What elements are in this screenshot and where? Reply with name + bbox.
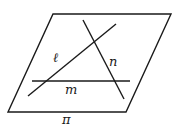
line-n <box>83 20 124 99</box>
label-line-l: ℓ <box>53 50 59 65</box>
plane-pi-parallelogram <box>8 14 171 112</box>
label-line-n: n <box>109 54 117 69</box>
label-plane-pi: π <box>61 112 71 127</box>
label-line-m: m <box>65 82 77 97</box>
diagram-canvas: ℓ n m π <box>0 0 184 128</box>
